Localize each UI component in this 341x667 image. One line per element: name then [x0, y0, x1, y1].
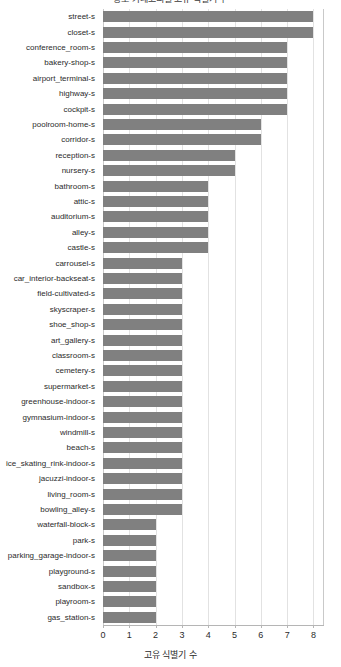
bar-row — [103, 27, 324, 38]
y-axis-label: parking_garage-indoor-s — [8, 551, 95, 560]
bar-row — [103, 211, 324, 222]
chart-title: 장소 카테고리별 고유 식별기 수 — [0, 0, 341, 3]
bar — [103, 165, 235, 176]
bar-row — [103, 350, 324, 361]
bar — [103, 258, 182, 269]
x-tick-label: 5 — [225, 630, 245, 641]
y-axis-label: carrousel-s — [55, 259, 95, 268]
x-tick-label: 3 — [172, 630, 192, 641]
bar — [103, 150, 235, 161]
bar — [103, 427, 182, 438]
y-axis-label: highway-s — [59, 89, 95, 98]
y-axis-label: park-s — [73, 536, 95, 545]
bar — [103, 519, 156, 530]
y-axis-label: living_room-s — [47, 490, 95, 499]
bar-row — [103, 181, 324, 192]
bar-row — [103, 581, 324, 592]
bar-row — [103, 566, 324, 577]
bar-row — [103, 473, 324, 484]
bar-row — [103, 196, 324, 207]
x-tick-label: 6 — [251, 630, 271, 641]
y-axis-label: windmill-s — [60, 428, 95, 437]
bar-row — [103, 150, 324, 161]
y-axis-label: classroom-s — [52, 351, 95, 360]
bar-row — [103, 550, 324, 561]
bar — [103, 273, 182, 284]
y-axis-label: field-cultivated-s — [37, 289, 95, 298]
y-axis-label: poolroom-home-s — [32, 120, 95, 129]
bars-container — [103, 9, 324, 625]
y-axis-label: cockpit-s — [63, 105, 95, 114]
bar — [103, 11, 313, 22]
bar-row — [103, 365, 324, 376]
x-axis-title: 고유 식별기 수 — [0, 648, 341, 661]
y-axis-label: bowling_alley-s — [40, 505, 95, 514]
y-axis-label: skyscraper-s — [50, 305, 95, 314]
bar — [103, 42, 287, 53]
bar — [103, 566, 156, 577]
x-tick-mark-1 — [129, 625, 130, 628]
y-axis-label: gas_station-s — [47, 613, 95, 622]
y-axis-label: alley-s — [72, 228, 95, 237]
bar — [103, 196, 208, 207]
x-tick-label: 7 — [277, 630, 297, 641]
y-axis-label: waterfall-block-s — [37, 520, 95, 529]
bar — [103, 288, 182, 299]
y-axis-label: nursery-s — [62, 166, 95, 175]
y-axis-label: corridor-s — [61, 135, 95, 144]
bar-chart: 장소 카테고리별 고유 식별기 수 street-scloset-sconfer… — [0, 0, 341, 667]
bar-row — [103, 458, 324, 469]
x-tick-mark-8 — [313, 625, 314, 628]
bar-row — [103, 319, 324, 330]
bar-row — [103, 134, 324, 145]
bar — [103, 535, 156, 546]
bar-row — [103, 288, 324, 299]
y-axis-label: cemetery-s — [55, 366, 95, 375]
bar — [103, 473, 182, 484]
bar — [103, 119, 261, 130]
y-axis-label: airport_terminal-s — [33, 74, 95, 83]
bar-row — [103, 427, 324, 438]
bar-row — [103, 57, 324, 68]
y-axis-label: playroom-s — [55, 597, 95, 606]
bar — [103, 442, 182, 453]
bar — [103, 57, 287, 68]
bar — [103, 350, 182, 361]
bar-row — [103, 73, 324, 84]
bar-row — [103, 11, 324, 22]
bar-row — [103, 612, 324, 623]
bar — [103, 365, 182, 376]
x-tick-label: 4 — [198, 630, 218, 641]
bar — [103, 73, 287, 84]
plot-area — [103, 9, 324, 625]
y-axis-label: car_interior-backseat-s — [14, 274, 95, 283]
bar — [103, 27, 313, 38]
x-tick-mark-4 — [208, 625, 209, 628]
bar — [103, 504, 182, 515]
y-axis-label: castle-s — [67, 243, 95, 252]
bar-row — [103, 519, 324, 530]
bar — [103, 458, 182, 469]
y-axis-label: greenhouse-indoor-s — [21, 397, 95, 406]
y-axis-label: auditorium-s — [51, 212, 95, 221]
y-axis-label: sandbox-s — [58, 582, 95, 591]
bar-row — [103, 119, 324, 130]
bar — [103, 612, 156, 623]
y-axis-label: playground-s — [49, 567, 95, 576]
x-tick-mark-3 — [182, 625, 183, 628]
bar-row — [103, 335, 324, 346]
x-axis-line — [103, 625, 324, 626]
x-tick-mark-5 — [235, 625, 236, 628]
y-axis-label: art_gallery-s — [51, 336, 95, 345]
x-tick-label: 0 — [93, 630, 113, 641]
bar — [103, 104, 287, 115]
y-axis-label: shoe_shop-s — [49, 320, 95, 329]
bar-row — [103, 304, 324, 315]
bar-row — [103, 42, 324, 53]
bar — [103, 489, 182, 500]
bar — [103, 181, 208, 192]
bar — [103, 581, 156, 592]
y-axis-label: jacuzzi-indoor-s — [39, 474, 95, 483]
bar-row — [103, 442, 324, 453]
y-axis-category-labels: street-scloset-sconference_room-sbakery-… — [0, 9, 99, 625]
